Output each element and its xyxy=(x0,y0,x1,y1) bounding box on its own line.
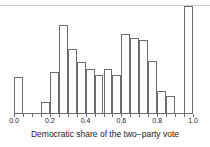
x-axis-title: Democratic share of the two−party vote xyxy=(0,129,210,139)
histogram-bar xyxy=(86,69,95,113)
plot-area xyxy=(0,0,210,113)
x-axis-tick xyxy=(166,114,167,117)
histogram-bar xyxy=(130,38,139,113)
x-axis-tick xyxy=(139,114,140,117)
x-axis-tick xyxy=(32,114,33,117)
histogram-bar xyxy=(184,6,193,113)
histogram-bar xyxy=(121,34,130,113)
x-axis-tick xyxy=(112,114,113,117)
x-axis-tick xyxy=(148,114,149,117)
x-axis-tick xyxy=(59,114,60,117)
x-axis-tick-label: 0.8 xyxy=(152,116,162,125)
x-axis-tick xyxy=(95,114,96,117)
histogram-bar xyxy=(59,25,68,113)
x-axis-tick-label: 1.0 xyxy=(188,116,198,125)
x-axis-tick xyxy=(41,114,42,117)
x-axis-tick-label: 0.0 xyxy=(9,116,19,125)
x-axis-tick xyxy=(68,114,69,117)
histogram-bar xyxy=(50,72,59,113)
histogram-bar xyxy=(148,61,157,113)
histogram-bar xyxy=(104,69,113,113)
histogram-bar xyxy=(166,96,175,113)
x-axis-tick xyxy=(104,114,105,117)
x-axis-tick xyxy=(184,114,185,117)
histogram-bar xyxy=(14,77,23,113)
histogram-bar xyxy=(139,40,148,113)
x-axis-tick xyxy=(175,114,176,117)
histogram-bar xyxy=(68,49,77,113)
histogram-figure: 0.00.20.40.60.81.0 Democratic share of t… xyxy=(0,0,210,147)
x-axis-tick-label: 0.2 xyxy=(45,116,55,125)
x-axis-tick-label: 0.4 xyxy=(81,116,91,125)
x-axis-tick xyxy=(23,114,24,117)
x-axis-tick xyxy=(130,114,131,117)
histogram-bar xyxy=(95,75,104,113)
histogram-bar xyxy=(77,62,86,113)
histogram-bar xyxy=(112,75,121,113)
histogram-bar xyxy=(41,102,50,113)
x-axis-tick-label: 0.6 xyxy=(117,116,127,125)
x-axis-tick xyxy=(77,114,78,117)
histogram-bar xyxy=(157,91,166,113)
